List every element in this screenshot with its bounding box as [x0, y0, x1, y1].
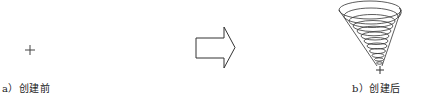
panel-a-caption: a）创建前 [2, 80, 50, 95]
right-arrow-icon [196, 27, 235, 68]
apex-crosshair-icon [376, 66, 384, 74]
panel-b-caption: b）创建后 [352, 80, 401, 95]
crosshair-icon [25, 45, 35, 55]
conical-helix [339, 1, 401, 66]
